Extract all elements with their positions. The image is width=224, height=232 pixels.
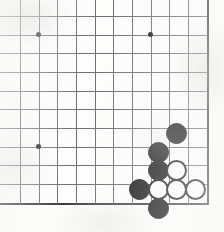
grid-line-horizontal (0, 147, 208, 148)
board-edge-line-bottom (0, 203, 209, 205)
grid-line-vertical (76, 0, 77, 204)
grid-line-vertical (132, 0, 133, 204)
board-edge-line-right (207, 0, 209, 205)
black-stone[interactable] (129, 179, 150, 200)
star-point (148, 32, 153, 37)
grid-line-vertical (39, 0, 40, 204)
grid-line-vertical (188, 0, 189, 204)
star-point (36, 144, 41, 149)
grid-line-horizontal (0, 16, 208, 17)
black-stone[interactable] (166, 123, 187, 144)
white-stone[interactable] (185, 179, 206, 200)
star-point (36, 32, 41, 37)
grid-line-vertical (95, 0, 96, 204)
grid-line-horizontal (0, 53, 208, 54)
grid-line-vertical (20, 0, 21, 204)
grid-line-vertical (113, 0, 114, 204)
go-board[interactable] (0, 0, 224, 232)
white-stone[interactable] (166, 160, 187, 181)
grid-line-horizontal (0, 91, 208, 92)
grid-line-horizontal (0, 72, 208, 73)
black-stone[interactable] (148, 198, 169, 219)
grid-line-horizontal (0, 35, 208, 36)
grid-line-vertical (57, 0, 58, 204)
go-diagram-figure (0, 0, 224, 232)
grid-line-horizontal (0, 109, 208, 110)
